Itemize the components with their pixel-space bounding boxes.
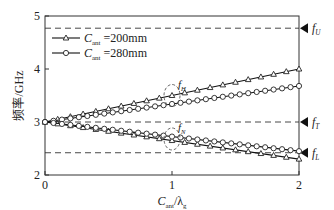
legend-label: Cant =280mm (84, 46, 148, 62)
circle-marker-icon (203, 97, 208, 102)
circle-marker-icon (279, 147, 284, 152)
circle-marker-icon (102, 111, 107, 116)
circle-marker-icon (85, 124, 90, 129)
circle-marker-icon (152, 104, 157, 109)
circle-marker-icon (152, 132, 157, 137)
circle-marker-icon (102, 126, 107, 131)
circle-marker-icon (169, 134, 174, 139)
circle-marker-icon (136, 130, 141, 135)
circle-marker-icon (119, 128, 124, 133)
circle-marker-icon (186, 99, 191, 104)
circle-marker-icon (68, 116, 73, 121)
x-axis-label: Cant/λg (157, 194, 187, 210)
circle-marker-icon (161, 103, 166, 108)
x-tick-label: 2 (296, 178, 302, 192)
circle-marker-icon (271, 146, 276, 151)
frequency-chart: fUfTfL2345012Cant/λg频率/GHzfHfNCant =200m… (0, 0, 334, 210)
circle-marker-icon (127, 107, 132, 112)
circle-marker-icon (68, 122, 73, 127)
circle-marker-icon (288, 148, 293, 153)
circle-marker-icon (254, 89, 259, 94)
circle-marker-icon (212, 95, 217, 100)
reference-marker-icon (300, 117, 308, 127)
circle-marker-icon (144, 131, 149, 136)
circle-marker-icon (76, 123, 81, 128)
circle-marker-icon (195, 98, 200, 103)
circle-marker-icon (42, 119, 47, 124)
circle-marker-icon (136, 106, 141, 111)
circle-marker-icon (93, 125, 98, 130)
circle-marker-icon (203, 138, 208, 143)
reference-label-fU: fU (312, 21, 321, 37)
circle-marker-icon (93, 112, 98, 117)
reference-marker-icon (300, 23, 308, 33)
y-axis-label: 频率/GHz (11, 71, 26, 121)
x-tick-label: 1 (169, 178, 175, 192)
y-tick-label: 5 (34, 9, 40, 23)
annotation-label-fN: fN (178, 121, 186, 135)
circle-marker-icon (288, 85, 293, 90)
circle-marker-icon (263, 88, 268, 93)
x-tick-label: 0 (42, 178, 48, 192)
circle-marker-icon (63, 50, 68, 55)
circle-marker-icon (246, 91, 251, 96)
circle-marker-icon (119, 109, 124, 114)
annotation-label-fH: fH (178, 78, 187, 92)
circle-marker-icon (296, 149, 301, 154)
circle-marker-icon (254, 144, 259, 149)
circle-marker-icon (127, 129, 132, 134)
circle-marker-icon (296, 83, 301, 88)
circle-marker-icon (271, 87, 276, 92)
circle-marker-icon (85, 113, 90, 118)
reference-label-fT: fT (312, 115, 320, 131)
circle-marker-icon (110, 110, 115, 115)
y-tick-label: 2 (34, 168, 40, 182)
circle-marker-icon (212, 139, 217, 144)
circle-marker-icon (59, 121, 64, 126)
circle-marker-icon (178, 135, 183, 140)
legend-label: Cant =200mm (84, 31, 148, 47)
circle-marker-icon (220, 94, 225, 99)
triangle-marker-icon (296, 66, 302, 71)
circle-marker-icon (237, 142, 242, 147)
circle-marker-icon (229, 141, 234, 146)
circle-marker-icon (110, 127, 115, 132)
circle-marker-icon (229, 93, 234, 98)
circle-marker-icon (186, 136, 191, 141)
circle-marker-icon (220, 140, 225, 145)
y-tick-label: 3 (34, 115, 40, 129)
circle-marker-icon (246, 143, 251, 148)
legend: Cant =200mmCant =280mm (52, 31, 148, 62)
reference-label-fL: fL (312, 146, 319, 162)
circle-marker-icon (144, 105, 149, 110)
circle-marker-icon (263, 145, 268, 150)
circle-marker-icon (51, 120, 56, 125)
y-tick-label: 4 (34, 62, 40, 76)
circle-marker-icon (237, 92, 242, 97)
circle-marker-icon (195, 137, 200, 142)
circle-marker-icon (279, 86, 284, 91)
circle-marker-icon (76, 115, 81, 120)
